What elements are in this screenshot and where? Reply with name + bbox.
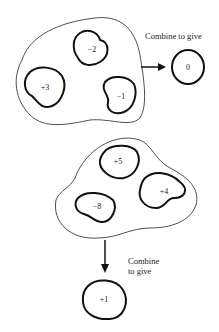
result-label: +1: [100, 295, 109, 304]
charge-label: +3: [41, 83, 50, 92]
arrow-head-icon: [101, 264, 109, 273]
result-label: 0: [186, 63, 190, 72]
charge-label: −2: [88, 45, 97, 54]
charge-label: +4: [160, 187, 169, 196]
bottom-caption-line1: Combine: [128, 256, 159, 266]
charge-label: −1: [117, 92, 126, 101]
bottom-caption-line2: to give: [128, 266, 152, 276]
bottom-group-boundary: [55, 138, 196, 238]
top-caption: Combine to give: [145, 31, 202, 41]
charge-combination-diagram: −2 +3 −1 Combine to give 0 +5 +4 −8 Comb…: [0, 0, 219, 332]
arrow-head-icon: [158, 63, 166, 71]
charge-label: −8: [93, 202, 102, 211]
charge-label: +5: [114, 157, 123, 166]
